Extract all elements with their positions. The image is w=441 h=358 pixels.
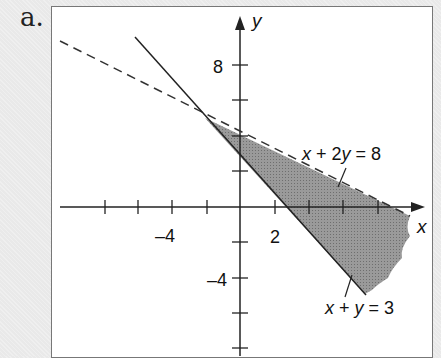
y-tick-label-neg4: –4 (207, 270, 227, 290)
leader-line-solid (345, 275, 352, 297)
label-x-plus-2y-eq-8: x + 2y = 8 (301, 144, 381, 164)
y-axis-arrow-icon (235, 16, 245, 30)
x-tick-label-neg4: –4 (155, 226, 175, 246)
x-axis-arrow-icon (411, 202, 425, 212)
y-axis-label: y (250, 10, 263, 31)
x-tick-label-2: 2 (270, 227, 280, 247)
x-axis-label: x (416, 216, 428, 237)
label-x-plus-y-eq-3: x + y = 3 (324, 298, 394, 318)
solid-line-x-plus-y-eq-3 (135, 37, 366, 295)
dashed-line-x-plus-2y-eq-8 (60, 41, 410, 216)
y-tick-label-8: 8 (213, 57, 223, 77)
